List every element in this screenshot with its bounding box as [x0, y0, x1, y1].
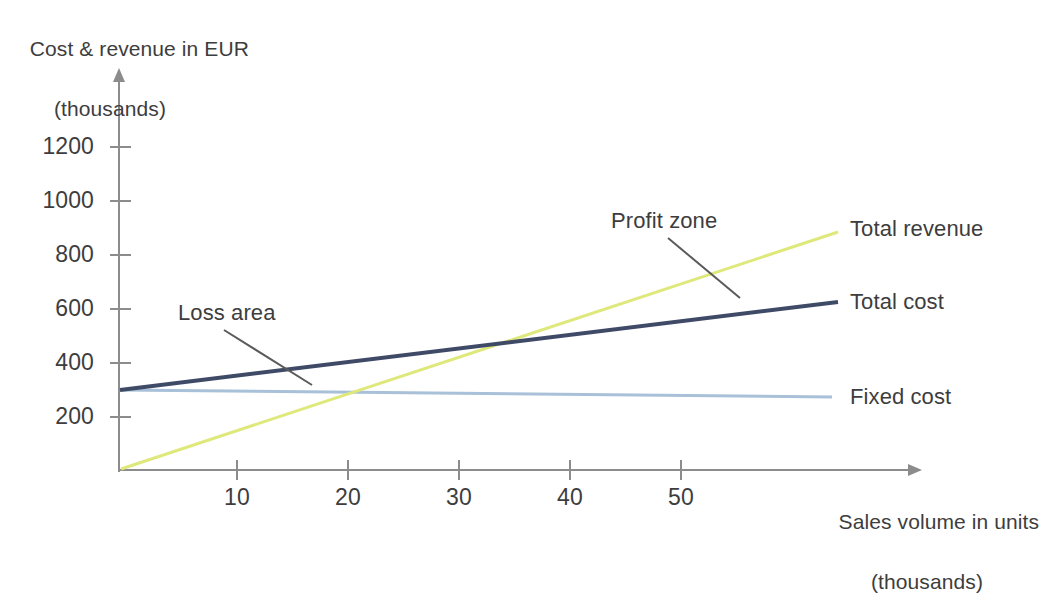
y-tick-label-800: 800	[10, 241, 94, 268]
annotation-profit-zone: Profit zone	[611, 208, 717, 234]
legend-label-fixed-cost: Fixed cost	[850, 384, 951, 410]
x-axis-title-line2: (thousands)	[806, 567, 1048, 597]
y-tick-label-200: 200	[10, 403, 94, 430]
y-axis-title-line1: Cost & revenue in EUR	[30, 37, 249, 60]
x-tick-label-40: 40	[540, 484, 600, 511]
y-tick-label-400: 400	[10, 349, 94, 376]
y-tick-label-1200: 1200	[10, 133, 94, 160]
x-axis-title: Sales volume in units (thousands)	[806, 477, 1048, 597]
x-axis-title-line1: Sales volume in units	[839, 510, 1040, 533]
x-tick-label-50: 50	[651, 484, 711, 511]
series-line-total-revenue	[121, 232, 838, 469]
y-axis-title-line2: (thousands)	[6, 94, 249, 124]
x-tick-label-30: 30	[429, 484, 489, 511]
legend-label-total-revenue: Total revenue	[850, 216, 983, 242]
x-tick-label-10: 10	[207, 484, 267, 511]
legend-label-total-cost: Total cost	[850, 289, 944, 315]
x-axis	[119, 464, 922, 476]
y-tick-label-1000: 1000	[10, 187, 94, 214]
y-tick-label-600: 600	[10, 295, 94, 322]
y-axis-ticks	[110, 147, 131, 417]
x-tick-label-20: 20	[318, 484, 378, 511]
annotation-loss-area: Loss area	[178, 300, 276, 326]
series-line-fixed-cost	[120, 390, 832, 397]
